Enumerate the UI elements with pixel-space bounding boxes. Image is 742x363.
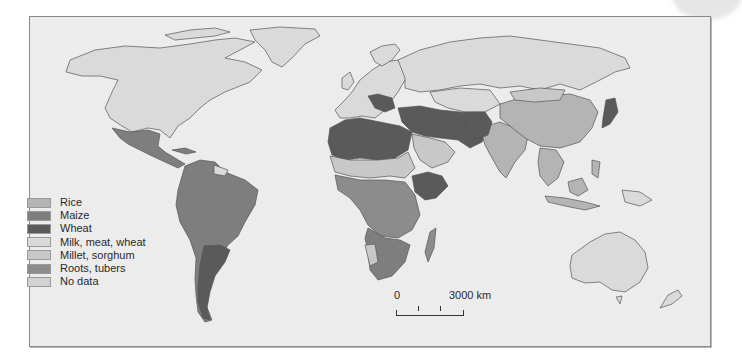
legend-item-rice: Rice [27, 196, 146, 209]
region-argentina [198, 245, 230, 320]
region-north-africa [328, 118, 412, 160]
legend-swatch [27, 264, 51, 274]
region-southeast-asia [538, 148, 564, 186]
scale-tick [440, 306, 441, 311]
region-madagascar [425, 228, 436, 262]
region-indonesia [545, 196, 600, 210]
region-new-zealand [660, 290, 682, 308]
legend-label: Maize [60, 209, 89, 222]
region-canada-arctic [165, 28, 230, 40]
region-uk [342, 72, 354, 90]
region-russia [398, 36, 630, 92]
legend-item-millet-sorghum: Millet, sorghum [27, 249, 146, 262]
region-borneo [568, 178, 588, 196]
region-central-asia [430, 88, 500, 112]
legend-swatch [27, 277, 51, 287]
region-mongolia [510, 88, 565, 102]
region-mexico-central-america [112, 128, 185, 168]
region-philippines [592, 160, 600, 178]
legend-item-wheat: Wheat [27, 222, 146, 235]
region-north-america [66, 38, 262, 138]
legend-swatch [27, 198, 51, 208]
scale-start-label: 0 [394, 289, 400, 301]
region-tasmania [616, 296, 622, 304]
region-greenland [250, 27, 320, 67]
legend-label: Millet, sorghum [60, 249, 135, 262]
scale-tick [418, 306, 419, 311]
legend-swatch [27, 237, 51, 247]
legend-swatch [27, 211, 51, 221]
region-japan [602, 98, 618, 128]
region-caribbean [172, 148, 196, 154]
region-central-africa [335, 175, 420, 238]
legend-item-maize: Maize [27, 209, 146, 222]
legend-label: Milk, meat, wheat [60, 236, 146, 249]
legend-swatch [27, 224, 51, 234]
region-new-guinea [622, 190, 652, 206]
legend-label: No data [60, 275, 99, 288]
scale-bar: 0 3000 km [394, 289, 494, 319]
legend-swatch [27, 250, 51, 260]
legend-label: Rice [60, 196, 82, 209]
legend-label: Roots, tubers [60, 262, 125, 275]
scale-line [396, 310, 464, 316]
map-legend: Rice Maize Wheat Milk, meat, wheat Mille… [27, 196, 146, 288]
legend-item-no-data: No data [27, 275, 146, 288]
legend-item-roots-tubers: Roots, tubers [27, 262, 146, 275]
scale-end-label: 3000 km [449, 289, 491, 301]
region-guianas [214, 165, 228, 176]
region-south-america [176, 160, 258, 322]
region-ethiopia [412, 172, 448, 200]
legend-item-milk-meat-wheat: Milk, meat, wheat [27, 236, 146, 249]
legend-label: Wheat [60, 222, 92, 235]
region-australia [570, 232, 648, 292]
